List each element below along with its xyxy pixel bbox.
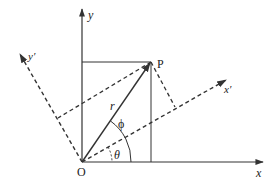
y-prime-projection-line	[58, 62, 151, 118]
origin-label: O	[77, 165, 86, 179]
x-prime-axis	[82, 80, 226, 162]
point-p-label: P	[157, 57, 164, 71]
radius-label: r	[110, 99, 115, 113]
theta-label: θ	[114, 148, 120, 162]
rotated-axes-diagram: y x y′ x′ P O r ϕ θ	[0, 0, 280, 183]
x-prime-label: x′	[223, 83, 232, 95]
theta-angle-arc	[108, 147, 112, 162]
y-prime-label: y′	[27, 50, 36, 62]
y-prime-axis	[20, 54, 82, 162]
x-axis-label: x	[255, 166, 262, 180]
y-axis-label: y	[87, 8, 94, 22]
phi-label: ϕ	[118, 117, 124, 131]
